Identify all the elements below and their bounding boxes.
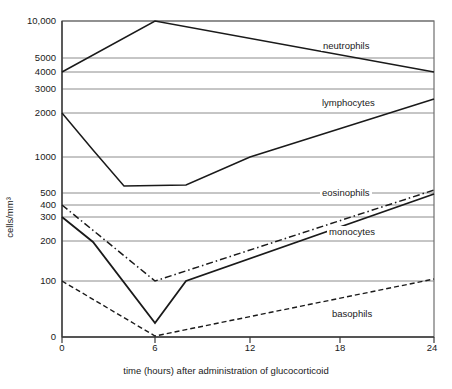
series-line-monocytes: [62, 194, 434, 323]
series-line-neutrophils: [62, 21, 434, 72]
series-label-neutrophils: neutrophils: [321, 40, 371, 51]
plot-area: [0, 0, 452, 389]
series-label-lymphocytes: lymphocytes: [320, 97, 377, 108]
series-line-eosinophils: [62, 190, 434, 281]
series-label-monocytes: monocytes: [327, 226, 377, 237]
series-line-basophils: [62, 279, 434, 336]
x-tickmarks: [62, 337, 434, 343]
series-line-lymphocytes: [62, 99, 434, 186]
series-label-basophils: basophils: [330, 308, 374, 319]
chart-figure: 10,000 5000 4000 3000 2000 1000 500 400 …: [0, 0, 452, 389]
series-label-eosinophils: eosinophils: [320, 187, 372, 198]
gridlines: [62, 21, 434, 281]
